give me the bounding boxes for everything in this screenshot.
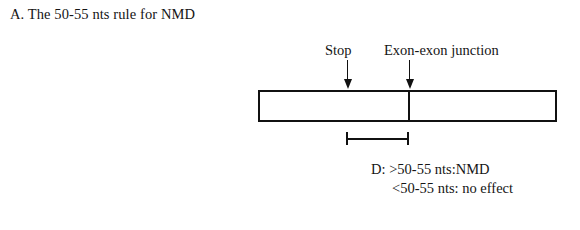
nmd-rule-note: D: >50-55 nts:NMD <50-55 nts: no effect bbox=[371, 160, 513, 198]
exon-exon-junction-down-arrow-icon bbox=[404, 60, 415, 89]
exon-exon-junction-label: Exon-exon junction bbox=[384, 42, 499, 59]
stop-down-arrow-icon bbox=[342, 60, 353, 89]
arrow-head bbox=[406, 79, 414, 89]
arrow-shaft bbox=[409, 60, 410, 81]
nmd-rule-note-line-2: <50-55 nts: no effect bbox=[371, 179, 513, 198]
stop-codon-label: Stop bbox=[325, 42, 352, 59]
measure-cap-right bbox=[407, 132, 409, 145]
nmd-rule-note-line-1: D: >50-55 nts:NMD bbox=[371, 161, 490, 177]
arrow-shaft bbox=[347, 60, 348, 81]
arrow-head bbox=[344, 79, 352, 89]
measure-rule-line bbox=[347, 138, 409, 140]
stop-to-junction-distance-measure bbox=[346, 132, 410, 146]
nmd-rule-diagram: Stop Exon-exon junction D: >50-55 nts:NM… bbox=[0, 0, 580, 230]
exon-exon-junction-line bbox=[408, 90, 410, 122]
